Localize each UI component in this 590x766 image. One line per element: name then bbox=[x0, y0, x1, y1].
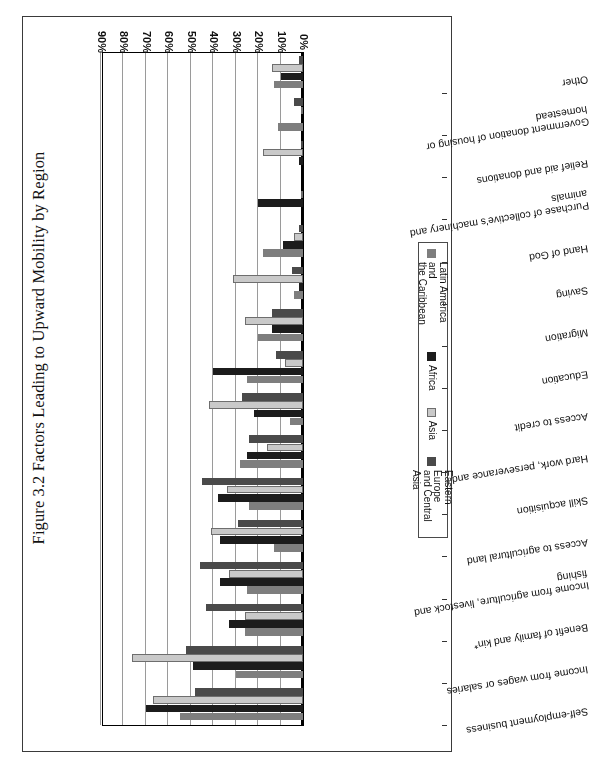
category-label: Other bbox=[378, 74, 588, 86]
category-label: Hard work, perseverance and thrift bbox=[378, 453, 588, 465]
bar bbox=[233, 275, 303, 283]
bar bbox=[272, 309, 303, 317]
legend-items: Latin America and the CaribbeanAfricaAsi… bbox=[417, 241, 447, 537]
bar-group bbox=[103, 472, 303, 514]
bar bbox=[272, 325, 303, 333]
bar bbox=[180, 713, 303, 721]
bar bbox=[301, 191, 303, 199]
bar bbox=[276, 351, 303, 359]
category-label: Saving bbox=[378, 284, 588, 296]
bar bbox=[242, 393, 303, 401]
category-tick bbox=[442, 599, 447, 600]
category-tick bbox=[442, 262, 447, 263]
category-tick bbox=[442, 725, 447, 726]
bar bbox=[258, 334, 303, 342]
bar bbox=[301, 107, 303, 115]
bar bbox=[294, 233, 303, 241]
bar-group bbox=[103, 177, 303, 219]
bar bbox=[193, 662, 303, 670]
category-tick bbox=[442, 388, 447, 389]
bar bbox=[211, 528, 303, 536]
category-tick bbox=[442, 641, 447, 642]
bar bbox=[218, 494, 303, 502]
chart-legend: Latin America and the CaribbeanAfricaAsi… bbox=[418, 242, 448, 538]
bar bbox=[290, 418, 303, 426]
legend-label: Africa bbox=[427, 365, 438, 391]
chart-rotated-container: 0%10%20%30%40%50%60%70%80%90% Self-emplo… bbox=[30, 22, 442, 744]
plot-area bbox=[102, 52, 304, 726]
bar bbox=[153, 696, 303, 704]
bar-group bbox=[103, 93, 303, 135]
legend-swatch bbox=[428, 249, 437, 258]
bar-group bbox=[103, 388, 303, 430]
bar bbox=[202, 478, 303, 486]
bar-group bbox=[103, 135, 303, 177]
category-label: Relief aid and donations bbox=[378, 158, 588, 170]
legend-swatch bbox=[428, 352, 437, 361]
category-label: Self-employment business bbox=[378, 705, 588, 717]
bar bbox=[278, 123, 303, 131]
bar bbox=[240, 460, 303, 468]
legend-item: Africa bbox=[427, 352, 438, 391]
bar bbox=[263, 149, 303, 157]
bar bbox=[229, 570, 303, 578]
bar bbox=[281, 73, 303, 81]
bar bbox=[238, 520, 303, 528]
bar bbox=[267, 444, 303, 452]
category-tick bbox=[442, 683, 447, 684]
category-tick bbox=[442, 472, 447, 473]
category-tick bbox=[442, 514, 447, 515]
legend-label: Asia bbox=[427, 421, 438, 440]
category-tick bbox=[442, 135, 447, 136]
legend-item: Asia bbox=[427, 408, 438, 440]
bar bbox=[299, 225, 303, 233]
category-label: Income from wages or salaries bbox=[378, 663, 588, 675]
bar bbox=[200, 562, 303, 570]
category-tick bbox=[442, 93, 447, 94]
bar bbox=[254, 410, 303, 418]
category-label: Access to agricultural land bbox=[378, 537, 588, 549]
category-label: Hand of God bbox=[378, 242, 588, 254]
bar bbox=[247, 586, 303, 594]
category-label: Education bbox=[378, 368, 588, 380]
legend-label: Latin America and the Caribbean bbox=[416, 262, 448, 335]
bar bbox=[195, 688, 303, 696]
bar-group bbox=[103, 641, 303, 683]
bar bbox=[220, 536, 303, 544]
bar bbox=[258, 199, 303, 207]
bar-group bbox=[103, 557, 303, 599]
bar bbox=[249, 435, 303, 443]
bar bbox=[132, 654, 303, 662]
bar bbox=[247, 376, 303, 384]
bar bbox=[207, 604, 304, 612]
bar bbox=[236, 671, 303, 679]
bar-group bbox=[103, 51, 303, 93]
bar bbox=[227, 486, 303, 494]
bar-group bbox=[103, 599, 303, 641]
bar bbox=[299, 157, 303, 165]
chart-inner: 0%10%20%30%40%50%60%70%80%90% Self-emplo… bbox=[30, 22, 442, 744]
bar bbox=[274, 81, 303, 89]
bar bbox=[247, 452, 303, 460]
legend-swatch bbox=[428, 457, 437, 466]
legend-label: Eastern Europe and Central Asia bbox=[411, 470, 453, 537]
bar bbox=[292, 267, 303, 275]
bar bbox=[245, 629, 303, 637]
category-label: Access to credit bbox=[378, 411, 588, 423]
bar bbox=[146, 705, 303, 713]
bar bbox=[263, 249, 303, 257]
bar bbox=[274, 544, 303, 552]
category-tick bbox=[442, 346, 447, 347]
legend-item: Eastern Europe and Central Asia bbox=[411, 457, 453, 537]
bar bbox=[229, 620, 303, 628]
category-label: Benefit of family and kin* bbox=[378, 621, 588, 633]
category-label: Migration bbox=[378, 326, 588, 338]
bar-group bbox=[103, 514, 303, 556]
bar bbox=[294, 98, 303, 106]
bar bbox=[299, 56, 303, 64]
category-tick bbox=[442, 177, 447, 178]
bar bbox=[245, 612, 303, 620]
bar bbox=[220, 578, 303, 586]
bar bbox=[299, 283, 303, 291]
